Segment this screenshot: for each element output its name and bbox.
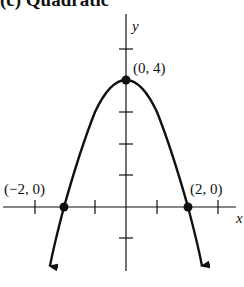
y-axis-label: y xyxy=(130,18,139,34)
left-intercept-label: (−2, 0) xyxy=(4,181,45,198)
x-axis-label: x xyxy=(235,210,243,226)
right-intercept-label: (2, 0) xyxy=(190,181,223,198)
left-intercept-point xyxy=(60,203,69,212)
vertex-point xyxy=(122,76,131,85)
right-intercept-point xyxy=(184,203,193,212)
vertex-label: (0, 4) xyxy=(133,60,166,77)
graph: (0, 4) (−2, 0) (2, 0) y x xyxy=(0,0,244,287)
